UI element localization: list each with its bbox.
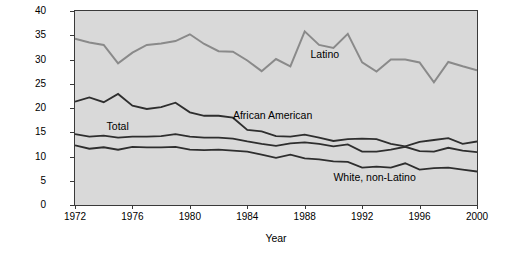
x-tick-label: 2000 <box>457 211 497 222</box>
chart-figure: Percent of 16- to 24-year-olds who have … <box>0 0 528 254</box>
x-tick-mark <box>362 205 363 209</box>
series-label-white-non-latino: White, non-Latino <box>333 171 415 183</box>
x-tick-mark <box>75 205 76 209</box>
line-white-non-latino <box>75 145 477 171</box>
x-tick-label: 1992 <box>342 211 382 222</box>
y-tick-label: 40 <box>16 5 46 16</box>
y-tick-label: 0 <box>16 199 46 210</box>
y-tick-label: 20 <box>16 102 46 113</box>
series-label-african-american: African American <box>233 109 312 121</box>
y-tick-mark <box>70 132 74 133</box>
y-tick-mark <box>70 84 74 85</box>
y-tick-label: 10 <box>16 151 46 162</box>
y-tick-label: 5 <box>16 175 46 186</box>
y-tick-mark <box>70 60 74 61</box>
x-tick-mark <box>305 205 306 209</box>
x-tick-mark <box>420 205 421 209</box>
x-tick-label: 1988 <box>285 211 325 222</box>
y-tick-label: 35 <box>16 29 46 40</box>
x-tick-mark <box>477 205 478 209</box>
series-lines <box>75 11 477 205</box>
x-tick-label: 1984 <box>227 211 267 222</box>
series-label-latino: Latino <box>310 48 339 60</box>
y-tick-label: 25 <box>16 78 46 89</box>
y-tick-label: 30 <box>16 54 46 65</box>
x-tick-mark <box>247 205 248 209</box>
plot-area <box>74 10 478 206</box>
y-tick-mark <box>70 205 74 206</box>
x-tick-label: 1996 <box>400 211 440 222</box>
y-tick-mark <box>70 35 74 36</box>
y-tick-mark <box>70 181 74 182</box>
x-tick-mark <box>132 205 133 209</box>
series-label-total: Total <box>107 120 129 132</box>
x-tick-label: 1976 <box>112 211 152 222</box>
line-latino <box>75 31 477 82</box>
x-tick-label: 1972 <box>55 211 95 222</box>
y-tick-label: 15 <box>16 126 46 137</box>
y-tick-mark <box>70 157 74 158</box>
y-tick-mark <box>70 11 74 12</box>
y-tick-mark <box>70 108 74 109</box>
x-axis-title: Year <box>74 232 478 244</box>
x-tick-mark <box>190 205 191 209</box>
x-tick-label: 1980 <box>170 211 210 222</box>
